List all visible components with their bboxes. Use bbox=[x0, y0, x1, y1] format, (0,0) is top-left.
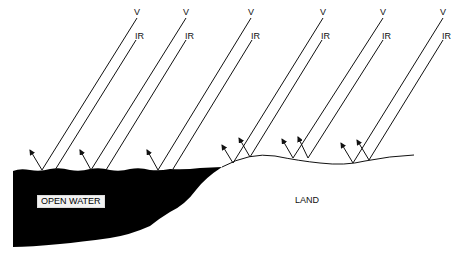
infrared-label: IR bbox=[321, 32, 330, 41]
reflectance-diagram bbox=[0, 0, 461, 258]
open-water-label: OPEN WATER bbox=[37, 195, 105, 208]
visible-ray bbox=[42, 18, 137, 170]
infrared-ray bbox=[55, 40, 136, 170]
infrared-label: IR bbox=[251, 32, 260, 41]
visible-label: V bbox=[320, 8, 326, 17]
infrared-label: IR bbox=[135, 32, 144, 41]
visible-label: V bbox=[440, 8, 446, 17]
reflection-arrow bbox=[282, 139, 293, 158]
infrared-label: IR bbox=[382, 32, 391, 41]
reflection-arrow bbox=[239, 138, 250, 157]
infrared-ray bbox=[369, 40, 443, 160]
infrared-label: IR bbox=[442, 32, 451, 41]
visible-ray bbox=[233, 18, 323, 163]
land-label: LAND bbox=[295, 195, 319, 205]
infrared-label: IR bbox=[185, 32, 194, 41]
infrared-ray bbox=[308, 40, 383, 158]
infrared-ray bbox=[173, 40, 252, 169]
visible-ray bbox=[353, 18, 443, 163]
visible-label: V bbox=[134, 8, 140, 17]
visible-label: V bbox=[183, 8, 189, 17]
visible-label: V bbox=[248, 8, 254, 17]
reflection-arrow bbox=[341, 143, 353, 163]
reflection-arrow bbox=[80, 150, 91, 170]
reflection-arrow bbox=[147, 150, 158, 170]
reflection-arrow bbox=[222, 145, 233, 163]
land-surface-line bbox=[222, 155, 414, 167]
reflection-arrow bbox=[30, 150, 42, 170]
infrared-ray bbox=[106, 40, 186, 170]
reflection-arrow bbox=[357, 140, 369, 160]
visible-label: V bbox=[380, 8, 386, 17]
infrared-ray bbox=[250, 40, 322, 157]
